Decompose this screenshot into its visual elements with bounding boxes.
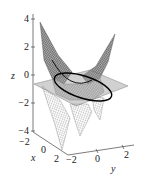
x-tick-0: 0 [41,144,46,155]
y-tick-neg2: −2 [66,154,77,165]
z-tick-neg4: −4 [18,125,29,136]
z-tick-neg2: −2 [18,97,29,108]
y-axis-label: y [110,163,116,174]
surface-plot: 4 2 0 −2 −4 z −2 0 2 x −2 0 2 y [0,0,146,180]
x-tick-2: 2 [54,153,59,164]
z-tick-2: 2 [24,41,29,52]
x-tick-neg2: −2 [19,136,30,147]
z-axis-label: z [10,70,15,81]
z-tick-0: 0 [24,69,29,80]
x-axis-label: x [30,152,36,163]
y-tick-2: 2 [124,149,129,160]
y-tick-0: 0 [95,153,100,164]
z-tick-4: 4 [24,13,29,24]
